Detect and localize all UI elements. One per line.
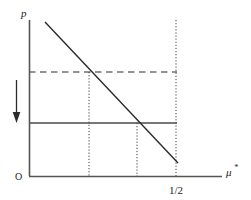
demand-curve-line (45, 22, 178, 163)
y-axis-label: p (20, 7, 27, 19)
figure-container: p O μ * 1/2 (0, 0, 251, 200)
economics-plot: p O μ * 1/2 (0, 0, 251, 200)
x-axis-label: μ (225, 166, 232, 178)
origin-label: O (15, 171, 22, 182)
downward-price-arrow-icon (13, 80, 21, 123)
x-axis-label-superscript: * (234, 163, 238, 172)
x-axis-label-group: μ * (225, 163, 238, 178)
x-tick-label-half: 1/2 (169, 184, 183, 196)
